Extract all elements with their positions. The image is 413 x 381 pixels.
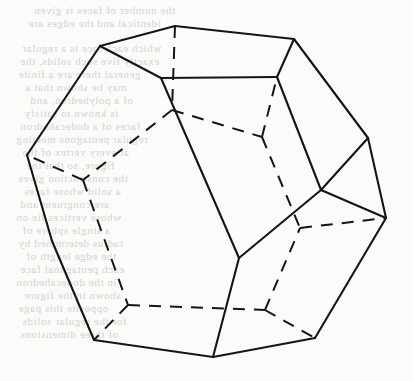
visible-edge-group bbox=[27, 26, 386, 357]
edge-t_nearright-c_right bbox=[277, 77, 321, 190]
hidden-edge-h_left-h_lowleft bbox=[83, 180, 128, 305]
edge-m_lowright-c_right bbox=[321, 190, 386, 218]
edge-t_left-m_left bbox=[27, 46, 100, 155]
edge-m_left-m_lowleft bbox=[27, 155, 52, 241]
edge-t_right-t_nearright bbox=[277, 39, 294, 77]
edge-t_right-m_right bbox=[294, 39, 368, 138]
edge-t_nearright-t_nearleft bbox=[161, 77, 277, 78]
edge-t_nearleft-c_bottom bbox=[161, 78, 239, 258]
hidden-edge-h_rightlow-m_lowright bbox=[300, 218, 386, 228]
figure-canvas: the number of faces is givenidentical an… bbox=[0, 0, 413, 381]
edge-m_right-c_right bbox=[321, 138, 368, 190]
hidden-edge-h_left-m_left bbox=[27, 155, 83, 180]
edge-c_right-c_bottom bbox=[239, 190, 321, 258]
hidden-edge-h_right-h_rightlow bbox=[262, 137, 300, 228]
edge-t_left-t_apex bbox=[100, 26, 175, 46]
edge-m_lowleft-b_left bbox=[52, 241, 94, 340]
edge-m_right-m_lowright bbox=[368, 138, 386, 218]
edge-b_left-b_center bbox=[94, 340, 213, 357]
edge-t_apex-t_right bbox=[175, 26, 294, 39]
edge-b_center-b_right bbox=[213, 338, 315, 357]
dodecahedron-svg: Regular dodecahedron bbox=[0, 0, 413, 381]
hidden-edge-t_apex-h_upper bbox=[172, 26, 175, 110]
hidden-edge-h_lowright-h_rightlow bbox=[265, 228, 300, 310]
edge-t_nearleft-t_left bbox=[100, 46, 161, 78]
edge-m_lowright-b_right bbox=[315, 218, 386, 338]
hidden-edge-h_lowleft-h_lowright bbox=[128, 305, 265, 310]
hidden-edge-h_lowleft-b_left bbox=[94, 305, 128, 340]
hidden-edge-h_right-t_nearright bbox=[262, 77, 277, 137]
hidden-edge-h_lowright-b_right bbox=[265, 310, 315, 338]
hidden-edge-h_upper-h_left bbox=[83, 110, 172, 180]
